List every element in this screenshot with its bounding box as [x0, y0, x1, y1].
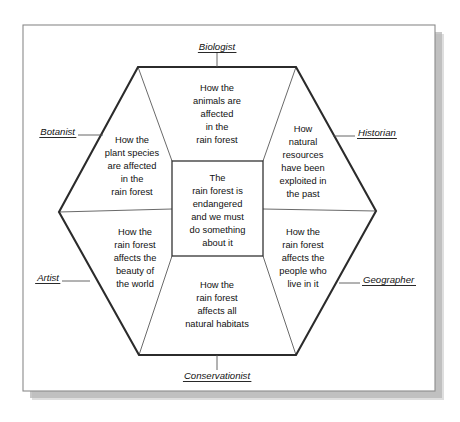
segment-top-line-3: in the [206, 122, 229, 132]
segment-upper-right-line-0: How [294, 124, 313, 134]
segment-bottom-line-0: How the [200, 280, 234, 290]
perspectives-hexagon-diagram: The rain forest is endangered and we mus… [0, 0, 460, 422]
segment-upper-right-line-1: natural [289, 137, 317, 147]
segment-top-line-1: animals are [193, 96, 241, 106]
role-label-conservationist-text: Conservationist [184, 370, 250, 381]
segment-upper-right-line-3: have been [281, 163, 324, 173]
segment-lower-right-line-2: affects the [282, 253, 325, 263]
segment-lower-right-line-3: people who [279, 266, 327, 276]
segment-bottom-line-1: rain forest [196, 293, 238, 303]
segment-upper-right-line-5: the past [286, 189, 319, 199]
segment-top-line-0: How the [200, 83, 234, 93]
role-label-geographer-text: Geographer [363, 274, 415, 285]
segment-lower-left-line-2: affects the [114, 253, 157, 263]
segment-upper-right-line-4: exploited in [279, 176, 326, 186]
segment-upper-left-line-1: plant species [105, 148, 160, 158]
role-label-biologist-text: Biologist [199, 41, 236, 52]
segment-top-line-4: rain forest [196, 135, 238, 145]
center-line-4: do something [190, 225, 246, 235]
segment-lower-right-line-4: live in it [287, 279, 318, 289]
segment-lower-right-line-1: rain forest [282, 240, 324, 250]
segment-upper-left-line-0: How the [115, 135, 149, 145]
segment-lower-right-line-0: How the [286, 227, 320, 237]
segment-upper-left-line-4: rain forest [111, 187, 153, 197]
center-line-1: rain forest is [192, 186, 243, 196]
segment-bottom-line-2: affects all [197, 306, 236, 316]
segment-upper-right-line-2: resources [283, 150, 324, 160]
role-label-artist-text: Artist [36, 272, 59, 283]
segment-bottom-line-3: natural habitats [185, 319, 249, 329]
role-label-botanist-text: Botanist [40, 126, 75, 137]
center-line-2: endangered [193, 199, 243, 209]
center-line-5: about it [202, 238, 233, 248]
center-line-0: The [209, 173, 225, 183]
segment-lower-left-line-1: rain forest [114, 240, 156, 250]
segment-lower-left-artist: How the rain forest affects the beauty o… [114, 227, 157, 289]
segment-lower-left-line-3: beauty of [116, 266, 155, 276]
segment-lower-left-line-4: the world [116, 279, 154, 289]
segment-upper-left-line-2: are affected [108, 161, 157, 171]
diagram-canvas: The rain forest is endangered and we mus… [0, 0, 460, 422]
segment-top-line-2: affected [201, 109, 234, 119]
segment-upper-left-line-3: in the [121, 174, 144, 184]
segment-lower-left-line-0: How the [118, 227, 152, 237]
center-line-3: and we must [191, 212, 244, 222]
role-label-historian-text: Historian [358, 127, 396, 138]
